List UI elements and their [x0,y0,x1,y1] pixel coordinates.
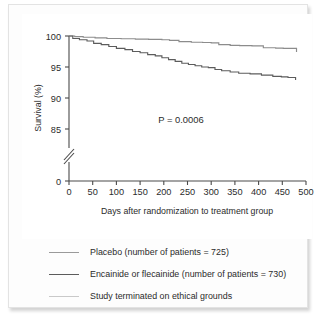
x-tick-label-400: 400 [251,187,266,197]
y-tick-labels: 100 95 90 85 0 [46,32,61,187]
y-tick-label-0: 0 [56,177,61,187]
x-tick-label-450: 450 [275,187,290,197]
legend-swatch-placebo [49,252,79,253]
x-tick-labels: 0 50 100 150 200 250 300 350 400 450 500 [66,187,313,197]
x-tick-label-150: 150 [132,187,147,197]
legend-swatch-terminated [49,296,79,297]
survival-chart: 100 95 90 85 0 0 [9,5,321,230]
legend-item-encainide-flecainide: Encainide or flecainide (number of patie… [22,263,306,285]
x-tick-label-50: 50 [88,187,98,197]
legend-item-placebo: Placebo (number of patients = 725) [22,241,306,263]
y-axis-title: Survival (%) [33,84,43,131]
curves-group [69,36,297,80]
survival-curve-encainide-flecainide [69,36,296,80]
legend-label-encainide-flecainide: Encainide or flecainide (number of patie… [90,269,286,279]
legend-label-terminated: Study terminated on ethical grounds [90,291,232,301]
legend-label-placebo: Placebo (number of patients = 725) [90,247,229,257]
y-tick-label-100: 100 [46,32,61,42]
x-tick-label-100: 100 [109,187,124,197]
y-tick-label-85: 85 [51,125,61,135]
y-tick-label-95: 95 [51,63,61,73]
figure-panel: 100 95 90 85 0 0 [8,4,308,308]
survival-curve-placebo [69,36,297,52]
x-tick-label-200: 200 [156,187,171,197]
x-tick-label-350: 350 [227,187,242,197]
p-value-annotation: P = 0.0006 [158,114,203,125]
legend-swatch-encainide-flecainide [49,274,79,275]
x-tick-label-250: 250 [180,187,195,197]
legend-item-terminated: Study terminated on ethical grounds [22,285,306,307]
y-tick-label-90: 90 [51,94,61,104]
x-tick-label-0: 0 [66,187,71,197]
x-ticks [69,181,306,185]
figure-root: 100 95 90 85 0 0 [0,0,321,323]
x-axis-title: Days after randomization to treatment gr… [101,206,273,216]
chart-legend: Placebo (number of patients = 725) Encai… [22,241,306,307]
x-tick-label-500: 500 [298,187,313,197]
x-tick-label-300: 300 [204,187,219,197]
